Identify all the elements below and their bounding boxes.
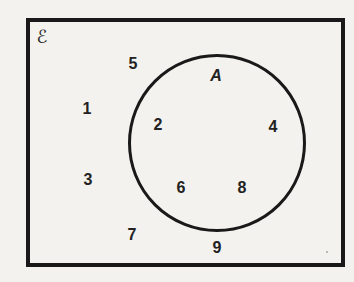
element-1: 1 (83, 101, 92, 117)
element-8: 8 (238, 180, 247, 196)
element-6: 6 (177, 180, 186, 196)
element-7: 7 (128, 227, 137, 243)
scan-speck (326, 251, 328, 253)
set-diagram: ℰ A 512436879 (0, 0, 354, 282)
element-2: 2 (154, 117, 163, 133)
element-9: 9 (213, 240, 222, 256)
element-5: 5 (129, 56, 138, 72)
set-a-label: A (210, 68, 222, 84)
element-3: 3 (84, 172, 93, 188)
element-4: 4 (269, 119, 278, 135)
universal-set-label: ℰ (37, 28, 48, 46)
